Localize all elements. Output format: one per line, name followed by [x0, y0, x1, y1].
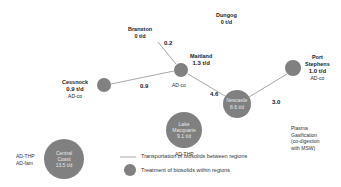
branxton-label: Branxton 0 t/d [128, 26, 152, 40]
central-coast-tech: AD-THP AD-fam [16, 153, 35, 167]
legend-transport: Transportation of biosolids between regi… [141, 153, 247, 159]
flow-cessnock-maitland: 0.9 [140, 83, 148, 89]
lake-macquarie-node: Lake Macquarie 9.1 t/d [166, 112, 202, 148]
cessnock-name: Cessnock [62, 79, 88, 86]
port-stephens-tech: AD-co [305, 75, 330, 82]
maitland-tech: AD-co [172, 82, 186, 88]
tech-note-line-3: (co-digestion [291, 138, 320, 145]
edge-maitland-newcastle [188, 74, 225, 96]
lake-macquarie-amount: 9.1 t/d [177, 133, 191, 139]
tech-note-line-4: with MSW) [291, 145, 320, 152]
port-stephens-node [285, 60, 301, 76]
edge-portstephens-newcastle [249, 74, 287, 97]
flow-branxton-maitland: 0.2 [164, 40, 172, 46]
legend-circle-icon [124, 164, 136, 176]
newcastle-tech-note: Plasma Gasification (co-digestion with M… [291, 125, 320, 151]
central-coast-node: Central Coast 13.5 t/d [44, 139, 84, 179]
branxton-name: Branxton [128, 26, 152, 33]
newcastle-node: Newcastle 8.6 t/d [223, 90, 251, 118]
maitland-name: Maitland [190, 53, 212, 60]
dungog-label: Dungog 0 t/d [216, 12, 237, 26]
flow-maitland-newcastle: 4.6 [210, 91, 218, 97]
newcastle-amount: 8.6 t/d [230, 104, 244, 110]
maitland-amount: 1.3 t/d [190, 60, 212, 67]
legend-treatment: Treatment of biosolids within regions [141, 167, 230, 173]
cessnock-node [97, 78, 111, 92]
maitland-node [174, 63, 188, 77]
central-coast-tech-1: AD-THP [16, 153, 35, 160]
branxton-amount: 0 t/d [128, 33, 152, 40]
cessnock-tech: AD-co [62, 93, 88, 100]
dungog-amount: 0 t/d [216, 19, 237, 26]
cessnock-amount: 0.9 t/d [62, 86, 88, 93]
flow-portstephens-newcastle: 3.0 [272, 99, 280, 105]
central-coast-amount: 13.5 t/d [56, 162, 73, 168]
port-stephens-amount: 1.0 t/d [305, 68, 330, 75]
central-coast-tech-2: AD-fam [16, 160, 35, 167]
port-stephens-label: Port Stephens 1.0 t/d AD-co [305, 54, 330, 82]
port-stephens-name-1: Port [305, 54, 330, 61]
maitland-label: Maitland 1.3 t/d [190, 53, 212, 67]
dungog-name: Dungog [216, 12, 237, 19]
port-stephens-name-2: Stephens [305, 61, 330, 68]
cessnock-label: Cessnock 0.9 t/d AD-co [62, 79, 88, 100]
